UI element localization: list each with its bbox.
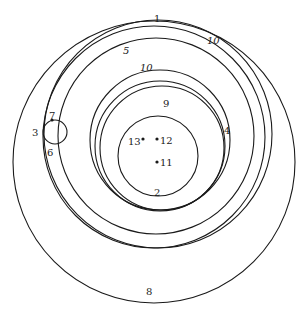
region-label: 4 xyxy=(224,125,230,136)
region-label: 10 xyxy=(140,62,153,73)
region-label: 3 xyxy=(32,127,38,138)
circle-c1a xyxy=(44,20,272,248)
circle-diagram: 1105109473613121128 xyxy=(0,0,308,314)
circle-c2 xyxy=(118,116,198,196)
point-p11 xyxy=(155,160,158,163)
region-label: 13 xyxy=(128,136,141,147)
region-label: 7 xyxy=(49,110,55,121)
circles-layer xyxy=(13,20,295,303)
point-p13 xyxy=(141,137,144,140)
circle-c1b xyxy=(43,26,265,248)
region-label: 9 xyxy=(163,98,169,109)
region-label: 2 xyxy=(154,187,160,198)
region-label: 5 xyxy=(123,45,129,56)
region-label: 11 xyxy=(160,157,173,168)
region-label: 1 xyxy=(154,13,160,24)
region-label: 8 xyxy=(146,286,152,297)
region-label: 12 xyxy=(160,135,173,146)
circle-outer xyxy=(13,21,295,303)
region-label: 6 xyxy=(47,147,53,158)
region-label: 10 xyxy=(207,35,220,46)
circle-small xyxy=(43,120,67,144)
point-p12 xyxy=(155,137,158,140)
